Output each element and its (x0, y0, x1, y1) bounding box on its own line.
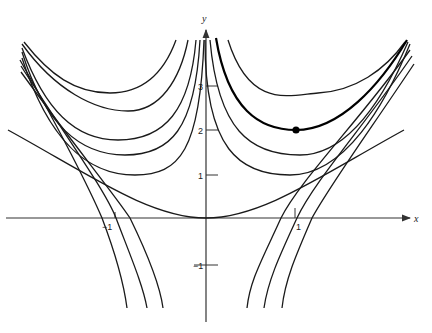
curve-right-lower-1 (247, 50, 410, 308)
x-axis-label: x (413, 213, 419, 224)
x-tick-label-pos1: 1 (296, 222, 301, 232)
curve-left-upper-2 (22, 40, 188, 111)
curve-left-lower-1 (20, 60, 127, 308)
curve-right-lower-2 (264, 56, 412, 308)
y-tick-label-neg1: −1 (193, 261, 203, 271)
solution-curves-figure: −1 1 1 2 3 −1 x y (0, 0, 432, 333)
y-axis-label: y (201, 13, 207, 24)
solution-curves (8, 38, 414, 308)
curve-right-upper-3 (210, 40, 408, 155)
highlighted-point (292, 126, 299, 133)
curve-left-upper-1 (24, 40, 176, 93)
curve-left-upper-4 (22, 40, 200, 155)
y-tick-label-1: 1 (198, 171, 203, 181)
y-tick-label-2: 2 (198, 126, 203, 136)
curve-right-upper-1 (228, 40, 405, 96)
